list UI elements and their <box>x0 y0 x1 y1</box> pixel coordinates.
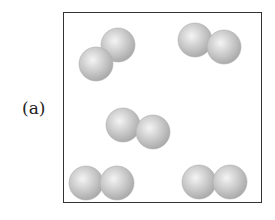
atom-sphere <box>182 165 216 199</box>
molecule-top-left <box>79 28 135 81</box>
atom-sphere <box>207 30 241 64</box>
atom-sphere <box>100 166 134 200</box>
molecule-bottom-right <box>182 165 247 199</box>
molecule-top-right <box>178 23 241 64</box>
atom-sphere <box>106 108 140 142</box>
molecule-center <box>106 108 170 149</box>
atom-sphere <box>69 166 103 200</box>
molecule-scene <box>0 0 275 220</box>
atom-sphere <box>178 23 212 57</box>
atom-sphere <box>213 165 247 199</box>
atom-sphere <box>79 47 113 81</box>
molecule-bottom-left <box>69 166 134 200</box>
atom-sphere <box>136 115 170 149</box>
